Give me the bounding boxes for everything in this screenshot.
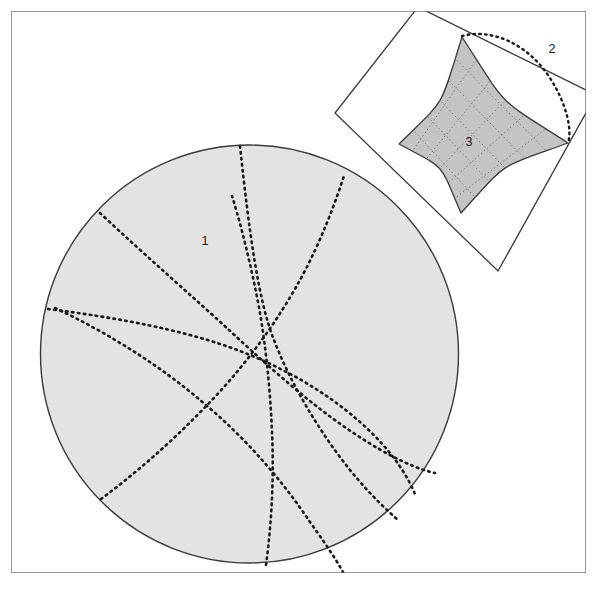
figure-canvas: 1 2 3	[0, 0, 597, 605]
region-label-2: 2	[549, 42, 556, 56]
figure-root: 1 2 3	[0, 0, 597, 605]
region-label-1: 1	[202, 234, 209, 248]
region-label-3: 3	[466, 135, 473, 149]
hyperbolic-disk	[41, 145, 459, 563]
